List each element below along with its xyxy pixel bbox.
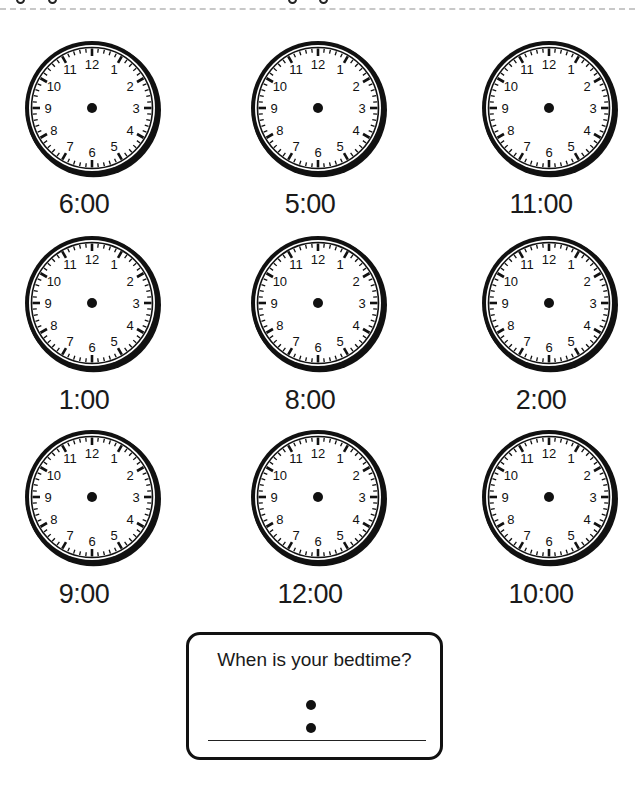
clock-number: 4 <box>126 318 133 333</box>
clock-number: 10 <box>273 79 287 94</box>
clock-number: 2 <box>352 274 359 289</box>
clock-icon: 121234567891011 <box>477 231 623 377</box>
clock-number: 4 <box>126 123 133 138</box>
bedtime-answer-line[interactable] <box>208 740 426 741</box>
clock-center-dot <box>544 492 554 502</box>
clock-number: 8 <box>50 512 57 527</box>
clock-face[interactable]: 121234567891011 <box>477 231 623 377</box>
clock-number: 8 <box>507 318 514 333</box>
clock-number: 12 <box>542 252 556 267</box>
clock-number: 7 <box>523 139 530 154</box>
clock-face[interactable]: 121234567891011 <box>246 36 392 182</box>
clock-number: 1 <box>110 257 117 272</box>
bedtime-question: When is your bedtime? <box>189 649 440 671</box>
clock-number: 7 <box>66 139 73 154</box>
clock-center-dot <box>87 298 97 308</box>
clock-number: 9 <box>44 101 51 116</box>
clock-number: 12 <box>85 252 99 267</box>
clock-face[interactable]: 121234567891011 <box>20 231 166 377</box>
clock-number: 9 <box>270 101 277 116</box>
clock-number: 1 <box>567 451 574 466</box>
clock-icon: 121234567891011 <box>20 36 166 182</box>
clock-center-dot <box>313 103 323 113</box>
clock-number: 10 <box>273 468 287 483</box>
clock-face[interactable]: 121234567891011 <box>477 36 623 182</box>
clock-number: 10 <box>504 274 518 289</box>
clock-number: 2 <box>583 79 590 94</box>
clock-number: 10 <box>273 274 287 289</box>
clock-number: 12 <box>85 446 99 461</box>
clock-face[interactable]: 121234567891011 <box>477 425 623 571</box>
clock-center-dot <box>544 103 554 113</box>
clock-number: 10 <box>47 79 61 94</box>
clock-number: 5 <box>336 139 343 154</box>
clock-number: 8 <box>507 123 514 138</box>
clock-number: 3 <box>132 101 139 116</box>
clock-number: 3 <box>358 101 365 116</box>
clock-number: 6 <box>545 340 552 355</box>
clock-number: 5 <box>336 528 343 543</box>
clock-number: 4 <box>583 123 590 138</box>
clock-number: 7 <box>292 334 299 349</box>
clock-number: 1 <box>336 257 343 272</box>
clock-number: 11 <box>520 451 534 466</box>
clock-number: 11 <box>63 257 77 272</box>
clock-face[interactable]: 121234567891011 <box>20 36 166 182</box>
clock-icon: 121234567891011 <box>20 425 166 571</box>
clock-number: 9 <box>44 296 51 311</box>
clock-number: 11 <box>520 62 534 77</box>
clock-number: 7 <box>66 334 73 349</box>
clock-face[interactable]: 121234567891011 <box>246 231 392 377</box>
clock-face[interactable]: 121234567891011 <box>20 425 166 571</box>
clock-number: 4 <box>352 123 359 138</box>
clock-number: 12 <box>85 57 99 72</box>
colon-dot-top <box>306 700 316 710</box>
dashed-separator <box>0 8 635 10</box>
clock-number: 4 <box>583 318 590 333</box>
clock-icon: 121234567891011 <box>477 36 623 182</box>
time-label: 5:00 <box>240 189 380 219</box>
clock-icon: 121234567891011 <box>477 425 623 571</box>
clock-number: 3 <box>132 296 139 311</box>
clock-number: 8 <box>50 123 57 138</box>
clock-number: 12 <box>311 252 325 267</box>
colon-dot-bottom <box>306 723 316 733</box>
clock-number: 1 <box>336 451 343 466</box>
clock-number: 7 <box>66 528 73 543</box>
clock-center-dot <box>313 492 323 502</box>
time-label: 6:00 <box>14 189 154 219</box>
clock-face[interactable]: 121234567891011 <box>246 425 392 571</box>
clock-number: 7 <box>523 528 530 543</box>
clock-number: 5 <box>336 334 343 349</box>
clock-number: 2 <box>352 79 359 94</box>
clock-number: 4 <box>352 318 359 333</box>
clock-number: 10 <box>47 274 61 289</box>
clock-number: 6 <box>88 534 95 549</box>
descender-fragment <box>319 0 328 4</box>
clock-number: 6 <box>545 534 552 549</box>
time-label: 12:00 <box>240 579 380 609</box>
clock-number: 1 <box>110 62 117 77</box>
clock-number: 1 <box>336 62 343 77</box>
descender-fragment <box>16 0 25 4</box>
cut-off-heading-fragments <box>0 0 635 6</box>
clock-number: 2 <box>583 274 590 289</box>
descender-fragment <box>48 0 57 4</box>
clock-number: 10 <box>504 468 518 483</box>
time-label: 1:00 <box>14 385 154 415</box>
clock-number: 7 <box>292 139 299 154</box>
clock-number: 4 <box>352 512 359 527</box>
clock-icon: 121234567891011 <box>20 231 166 377</box>
clock-number: 8 <box>276 512 283 527</box>
clock-number: 12 <box>311 446 325 461</box>
bedtime-box: When is your bedtime? <box>186 632 443 760</box>
descender-fragment <box>288 0 297 4</box>
clock-number: 5 <box>567 139 574 154</box>
clock-number: 4 <box>583 512 590 527</box>
clock-number: 9 <box>501 490 508 505</box>
clock-center-dot <box>87 103 97 113</box>
clock-number: 2 <box>126 468 133 483</box>
time-label: 9:00 <box>14 579 154 609</box>
clock-number: 9 <box>270 490 277 505</box>
clock-number: 7 <box>523 334 530 349</box>
